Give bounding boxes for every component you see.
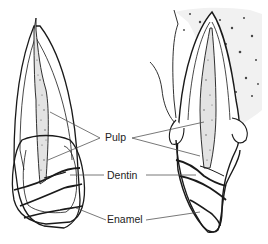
label-pulp: Pulp: [104, 132, 127, 143]
tooth-anatomy-diagram: Pulp Dentin Enamel: [0, 0, 268, 244]
left-tooth: [12, 18, 84, 228]
right-tooth: [150, 8, 262, 232]
label-enamel: Enamel: [106, 214, 144, 225]
label-dentin: Dentin: [106, 170, 138, 181]
diagram-drawing: [0, 0, 268, 244]
